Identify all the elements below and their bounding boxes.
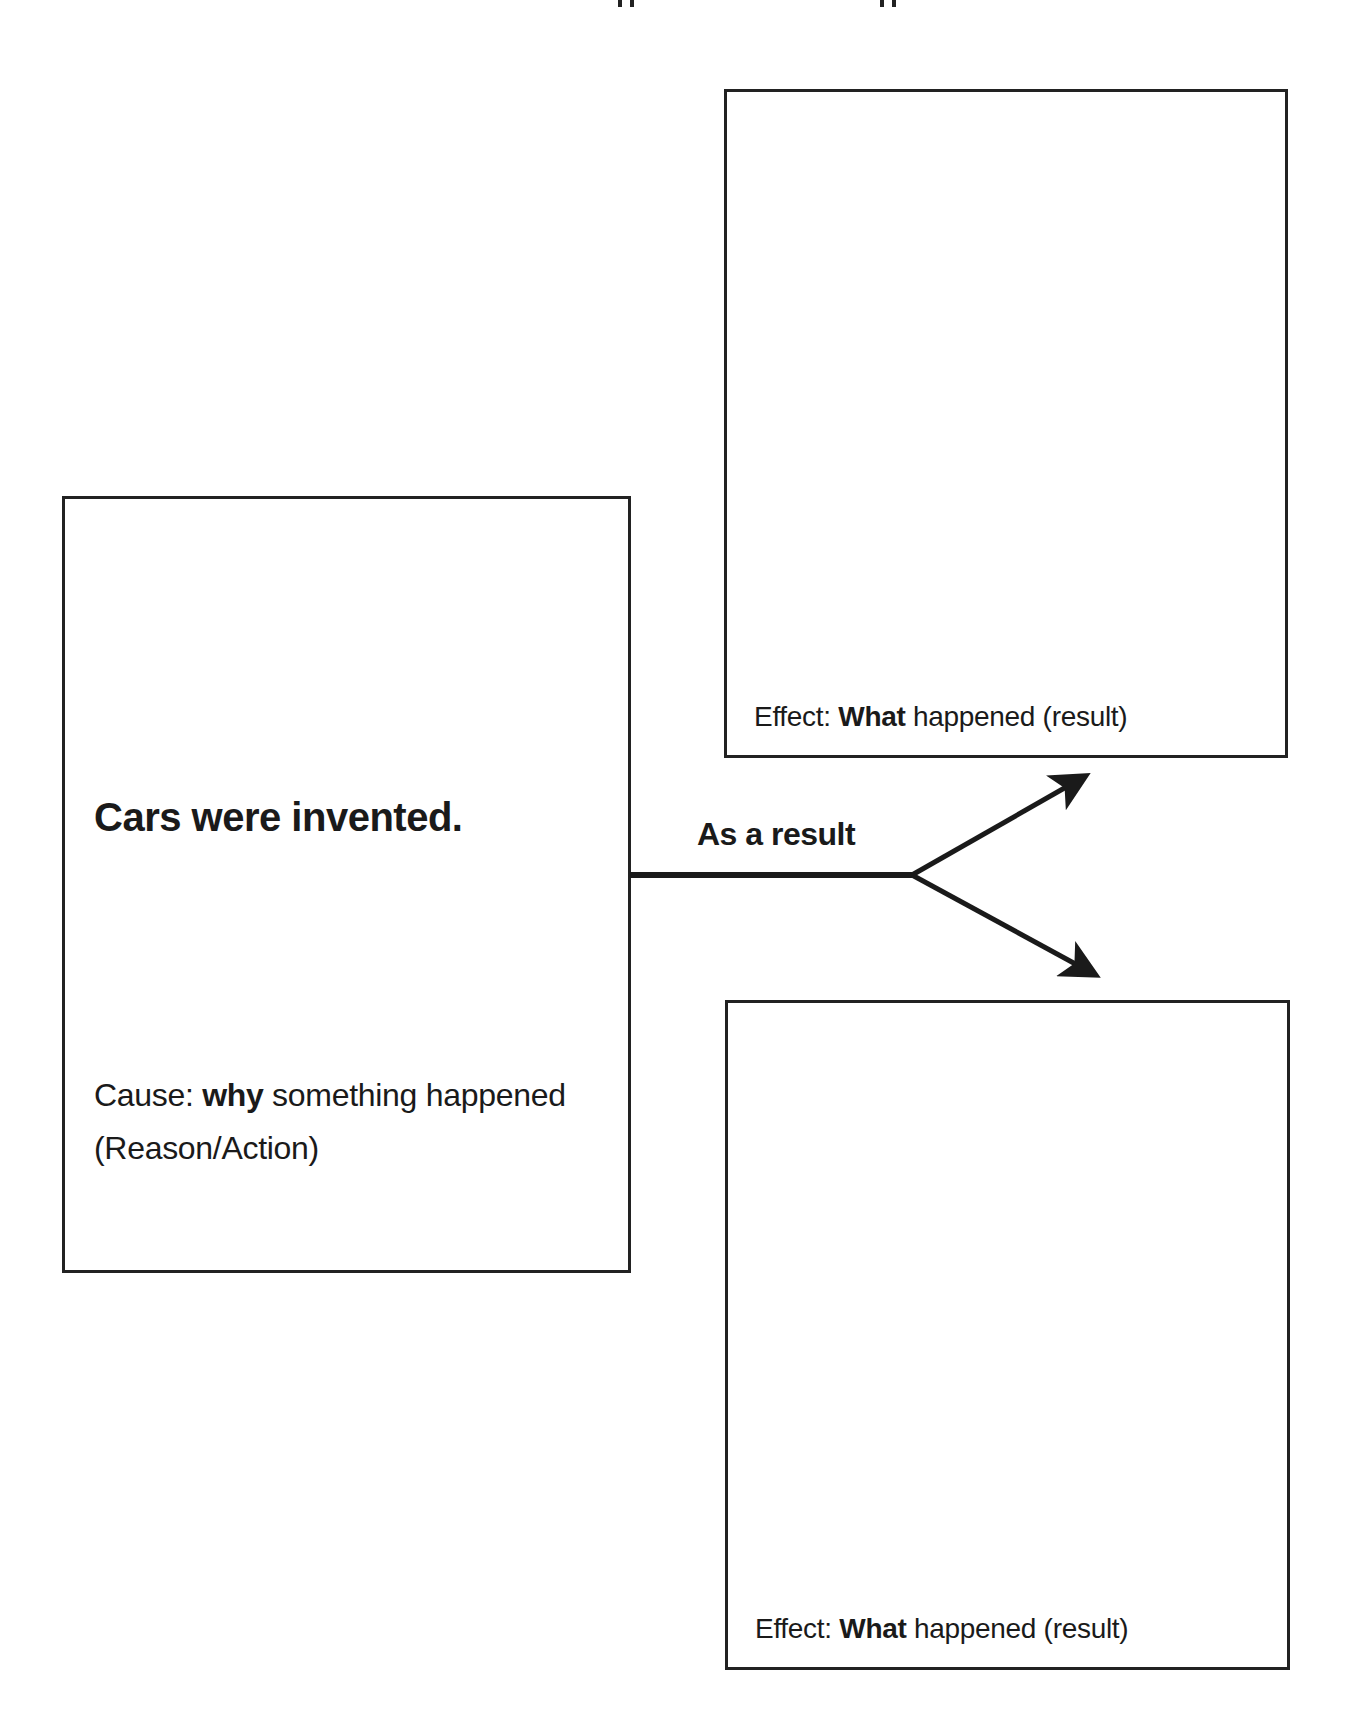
effect-label: Effect: What happened (result) (754, 701, 1127, 733)
connector-label: As a result (697, 816, 855, 853)
effect-label-prefix: Effect: (754, 701, 838, 732)
effect-label-suffix: happened (result) (906, 1613, 1128, 1644)
effect-box-bottom[interactable]: Effect: What happened (result) (725, 1000, 1290, 1670)
cause-label: Cause: why something happened (Reason/Ac… (94, 1069, 566, 1175)
arrow-to-top-effect (912, 778, 1082, 875)
cause-label-emphasis: why (202, 1077, 263, 1113)
cause-label-prefix: Cause: (94, 1077, 202, 1113)
clipped-text-fragment (630, 0, 634, 7)
clipped-text-fragment (880, 0, 884, 7)
effect-label-suffix: happened (result) (905, 701, 1127, 732)
clipped-text-fragment (618, 0, 622, 7)
effect-label-prefix: Effect: (755, 1613, 839, 1644)
effect-label: Effect: What happened (result) (755, 1613, 1128, 1645)
effect-label-emphasis: What (838, 701, 905, 732)
clipped-text-fragment (892, 0, 896, 7)
cause-box[interactable]: Cars were invented. Cause: why something… (62, 496, 631, 1273)
cause-headline: Cars were invented. (94, 795, 462, 840)
cause-label-line2: (Reason/Action) (94, 1130, 319, 1166)
cause-label-suffix: something happened (264, 1077, 566, 1113)
arrow-to-bottom-effect (912, 875, 1092, 973)
effect-box-top[interactable]: Effect: What happened (result) (724, 89, 1288, 758)
effect-label-emphasis: What (839, 1613, 906, 1644)
